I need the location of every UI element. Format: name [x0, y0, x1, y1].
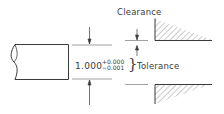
clearance-label: Clearance: [117, 8, 162, 17]
fit-tolerance-diagram: Clearance 1.000 +0.000 −0.001 } Toleranc…: [0, 0, 224, 114]
clearance-arrows: [136, 29, 139, 56]
hole-upper-wall: [155, 19, 212, 41]
tolerance-label: Tolerance: [137, 62, 179, 71]
lower-deviation: −0.001: [102, 65, 124, 71]
nominal-dimension: 1.000: [75, 62, 102, 71]
shaft: [11, 45, 68, 80]
tolerance-deviations: +0.000 −0.001: [102, 59, 124, 71]
hole-lower-wall: [155, 84, 212, 104]
diagram-drawing: [0, 0, 224, 114]
